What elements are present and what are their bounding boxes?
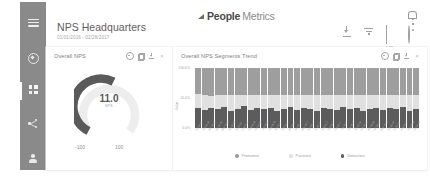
stacked-bar[interactable] — [301, 68, 307, 128]
x-axis-tick: Dec 2016 — [268, 130, 274, 152]
page-heading: NPS Headquarters 01/01/2016 - 02/28/2017 — [57, 21, 146, 40]
legend-item[interactable]: Detractors — [341, 154, 365, 158]
bar-segment-promoters — [195, 68, 201, 94]
copy-icon[interactable] — [138, 53, 144, 59]
download-icon[interactable] — [342, 26, 352, 37]
x-axis-tick: Dec 2017 — [347, 130, 353, 152]
stacked-bar[interactable] — [268, 68, 274, 128]
notification-bell-icon[interactable] — [408, 9, 417, 19]
stacked-bar[interactable] — [321, 68, 327, 128]
stacked-bar[interactable] — [387, 68, 393, 128]
sidebar-item-menu[interactable] — [20, 12, 46, 34]
bar-segment-passives — [393, 95, 399, 109]
stacked-bar[interactable] — [327, 68, 333, 128]
x-axis-tick: May 2016 — [221, 130, 227, 152]
left-sidebar — [20, 2, 46, 170]
bar-segment-promoters — [393, 68, 399, 95]
stacked-bar[interactable] — [208, 68, 214, 128]
bar-segment-promoters — [228, 68, 234, 95]
bar-segment-promoters — [248, 68, 254, 95]
stacked-bar[interactable] — [281, 68, 287, 128]
close-icon[interactable]: × — [414, 53, 420, 59]
stacked-bar[interactable] — [195, 68, 201, 128]
stacked-bar[interactable] — [400, 68, 406, 128]
bar-segment-passives — [254, 95, 260, 108]
bar-segment-passives — [340, 95, 346, 107]
bar-segment-promoters — [334, 68, 340, 95]
stacked-bar[interactable] — [261, 68, 267, 128]
stacked-bar[interactable] — [228, 68, 234, 128]
stacked-bar[interactable] — [380, 68, 386, 128]
x-axis-tick: Jan 2017 — [274, 130, 280, 152]
bar-segment-passives — [215, 95, 221, 109]
stacked-bar[interactable] — [215, 68, 221, 128]
x-axis-tick: Aug 2018 — [400, 130, 406, 152]
stacked-bar[interactable] — [241, 68, 247, 128]
bar-segment-promoters — [208, 68, 214, 96]
report-icon[interactable] — [386, 26, 396, 37]
menu-icon — [28, 19, 39, 27]
bar-segment-passives — [373, 95, 379, 108]
stacked-bar[interactable] — [347, 68, 353, 128]
filter-icon[interactable] — [364, 26, 374, 37]
bar-segment-passives — [367, 95, 373, 109]
application-window: People Metrics NPS Headquarters 01/01/20… — [0, 0, 430, 185]
stacked-bar[interactable] — [367, 68, 373, 128]
x-axis-tick: May 2018 — [380, 130, 386, 152]
close-icon[interactable]: × — [159, 53, 165, 59]
stacked-bar[interactable] — [248, 68, 254, 128]
stacked-bar[interactable] — [307, 68, 313, 128]
stacked-bar[interactable] — [340, 68, 346, 128]
copy-icon[interactable] — [393, 53, 399, 59]
gear-icon[interactable] — [381, 52, 389, 60]
gear-icon[interactable] — [126, 52, 134, 60]
download-icon[interactable] — [149, 53, 155, 59]
sidebar-item-dashboards[interactable] — [20, 79, 46, 101]
x-axis-tick: Sep 2018 — [407, 130, 413, 152]
download-icon[interactable] — [404, 53, 410, 59]
stacked-bar[interactable] — [294, 68, 300, 128]
x-axis-tick: Mar 2017 — [288, 130, 294, 152]
bar-segment-passives — [208, 96, 214, 109]
bar-segment-passives — [228, 95, 234, 111]
x-axis-tick: Feb 2016 — [202, 130, 208, 152]
legend-item[interactable]: Passives — [289, 154, 311, 158]
stacked-bar[interactable] — [407, 68, 413, 128]
stacked-bar-chart: Value 0.0%50.0%100.0% Jan 2016Feb 2016Ma… — [173, 64, 427, 170]
bar-segment-passives — [274, 95, 280, 111]
stacked-bar[interactable] — [393, 68, 399, 128]
x-axis-tick: Jan 2018 — [354, 130, 360, 152]
stacked-bar[interactable] — [413, 68, 419, 128]
stacked-bar[interactable] — [288, 68, 294, 128]
stacked-bar[interactable] — [334, 68, 340, 128]
widget-tools: × — [381, 52, 421, 60]
bar-segment-passives — [380, 95, 386, 110]
stacked-bar[interactable] — [360, 68, 366, 128]
stacked-bar[interactable] — [274, 68, 280, 128]
stacked-bar[interactable] — [373, 68, 379, 128]
stacked-bar[interactable] — [254, 68, 260, 128]
brand-logo: People Metrics — [198, 10, 275, 22]
y-axis-tick-label: 0.0% — [175, 126, 190, 130]
x-axis-tick: Aug 2016 — [241, 130, 247, 152]
stacked-bar[interactable] — [235, 68, 241, 128]
bar-segment-passives — [268, 95, 274, 108]
stacked-bar[interactable] — [354, 68, 360, 128]
gear-icon[interactable] — [408, 26, 418, 37]
sidebar-item-explore[interactable] — [20, 48, 46, 70]
dashboard-card: Overall NPS × 11.0 NPS -100 100 — [46, 47, 427, 170]
bar-segment-promoters — [261, 68, 267, 95]
sidebar-item-account[interactable] — [20, 148, 46, 170]
sidebar-item-share[interactable] — [20, 113, 46, 135]
gauge-max-label: 100 — [115, 144, 123, 150]
legend-label: Detractors — [347, 154, 365, 158]
stacked-bar[interactable] — [314, 68, 320, 128]
brand-name-bold: People — [207, 10, 240, 22]
legend-item[interactable]: Promoters — [235, 154, 259, 158]
person-icon — [29, 154, 38, 164]
widget-header: Overall NPS Segments Trend × — [173, 47, 427, 64]
bar-segment-promoters — [380, 68, 386, 95]
bar-segment-promoters — [327, 68, 333, 95]
stacked-bar[interactable] — [202, 68, 208, 128]
x-axis-tick: Oct 2018 — [413, 130, 419, 152]
